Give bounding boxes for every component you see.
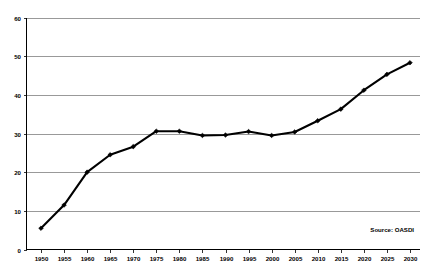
- source-annotation: Source: OASDI: [370, 226, 414, 233]
- x-tick-label-2030: 2030: [404, 255, 418, 262]
- x-tick-label-1965: 1965: [104, 255, 118, 262]
- chart-screenshot: 0102030405060 19501955196019651970197519…: [0, 0, 433, 276]
- x-tick-label-1995: 1995: [243, 255, 257, 262]
- x-tick-label-2000: 2000: [266, 255, 280, 262]
- x-tick-label-1960: 1960: [81, 255, 95, 262]
- x-tick-label-2025: 2025: [381, 255, 395, 262]
- y-tick-label-10: 10: [14, 208, 21, 215]
- x-tick-label-2015: 2015: [335, 255, 349, 262]
- chart-background: [0, 0, 433, 276]
- x-tick-label-2020: 2020: [358, 255, 372, 262]
- x-tick-label-1980: 1980: [173, 255, 187, 262]
- y-tick-label-30: 30: [14, 131, 21, 138]
- y-tick-label-20: 20: [14, 169, 21, 176]
- y-tick-label-50: 50: [14, 53, 21, 60]
- y-tick-label-40: 40: [14, 92, 21, 99]
- x-tick-label-1985: 1985: [196, 255, 210, 262]
- x-tick-label-1970: 1970: [127, 255, 141, 262]
- x-tick-label-2010: 2010: [312, 255, 326, 262]
- x-tick-label-1990: 1990: [220, 255, 234, 262]
- x-tick-labels-group: 1950195519601965197019751980198519901995…: [35, 255, 418, 262]
- line-chart: 0102030405060 19501955196019651970197519…: [0, 0, 433, 276]
- x-tick-label-2005: 2005: [289, 255, 303, 262]
- y-tick-label-60: 60: [14, 15, 21, 22]
- x-tick-label-1955: 1955: [58, 255, 72, 262]
- x-tick-label-1950: 1950: [35, 255, 49, 262]
- x-tick-label-1975: 1975: [150, 255, 164, 262]
